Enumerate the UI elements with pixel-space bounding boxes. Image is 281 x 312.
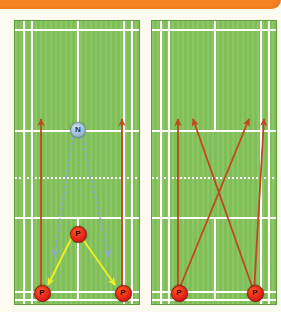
- arrow-yellow-right: [84, 241, 115, 285]
- diagram-canvas: PPPN PP: [0, 9, 281, 312]
- net-marker-n-net: N: [70, 122, 86, 138]
- player-marker-p-bottom-left: P: [171, 285, 188, 302]
- player-marker-p-bottom-left: P: [34, 285, 51, 302]
- arrows-layer: [151, 20, 277, 305]
- orange-banner-fill: [0, 0, 276, 7]
- player-marker-p-bottom-right: P: [247, 285, 264, 302]
- arrows-layer: [14, 20, 140, 305]
- arrow-yellow-left: [48, 241, 70, 285]
- player-marker-p-center: P: [70, 226, 87, 243]
- player-marker-p-bottom-right: P: [115, 285, 132, 302]
- arrow-red-cross-right: [193, 119, 254, 292]
- arrow-blue-net-left: [54, 137, 73, 257]
- left-court-diagram: PPPN: [14, 20, 140, 305]
- arrow-blue-net-right: [82, 137, 109, 257]
- right-court-diagram: PP: [151, 20, 277, 305]
- arrow-red-straight-right: [254, 119, 264, 292]
- arrow-red-cross-left: [178, 119, 249, 292]
- orange-banner: [0, 0, 281, 9]
- diagram-page: PPPN PP: [0, 0, 281, 312]
